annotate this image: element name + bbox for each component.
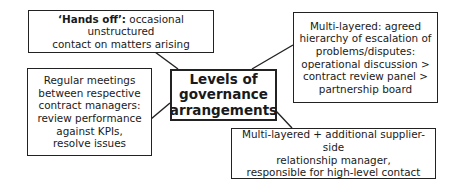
node-text-line: responsible for high-level contact xyxy=(232,166,435,179)
connector-multi-layered-plus xyxy=(276,111,292,128)
node-text-line: partnership board xyxy=(300,83,432,96)
node-text-line: problems/disputes: xyxy=(300,45,432,58)
node-text-line: Multi-layered + additional supplier-side xyxy=(232,128,435,153)
node-regular-meetings: Regular meetings between respective cont… xyxy=(27,68,152,156)
center-text-line: governance xyxy=(170,87,277,103)
node-multi-layered-plus: Multi-layered + additional supplier-side… xyxy=(231,128,436,179)
node-text-line: Regular meetings xyxy=(37,74,141,87)
node-hands-off: ‘Hands off’: occasional unstructured con… xyxy=(28,10,214,53)
node-text-line: operational discussion > xyxy=(300,58,432,71)
center-text-line: arrangements xyxy=(170,103,277,119)
node-text-line: relationship manager, xyxy=(232,154,435,167)
node-multi-layered: Multi-layered: agreed hierarchy of escal… xyxy=(293,12,438,103)
node-text-line: against KPIs, xyxy=(37,125,141,138)
node-text-line: hierarchy of escalation of xyxy=(300,32,432,45)
node-text-line: contract managers: xyxy=(37,99,141,112)
connector-regular-meetings xyxy=(151,103,170,119)
connector-multi-layered xyxy=(252,45,293,69)
node-text-line: resolve issues xyxy=(37,137,141,150)
hands-off-emphasis: ‘Hands off’: xyxy=(58,13,126,25)
connector-hands-off xyxy=(155,52,178,69)
center-text-line: Levels of xyxy=(170,72,277,88)
node-text-line: Multi-layered: agreed xyxy=(300,20,432,33)
node-text-line: contact on matters arising xyxy=(29,38,213,51)
node-text-line: ‘Hands off’: occasional unstructured xyxy=(29,13,213,38)
center-node-governance: Levels of governance arrangements xyxy=(170,69,277,121)
node-text-line: contract review panel > xyxy=(300,70,432,83)
node-text-line: between respective xyxy=(37,87,141,100)
node-text-line: review performance xyxy=(37,112,141,125)
